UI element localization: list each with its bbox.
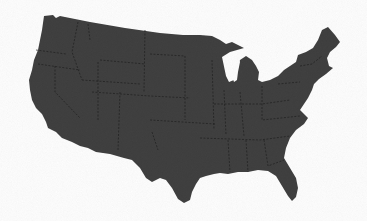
us-map [0,0,367,221]
texture-overlay [0,0,367,221]
us-map-svg [0,0,367,221]
